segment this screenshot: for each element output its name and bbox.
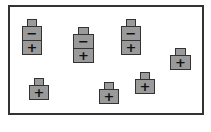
positive-cell: + bbox=[99, 89, 119, 104]
plus-icon: + bbox=[34, 86, 45, 99]
negative-cell: − bbox=[22, 26, 42, 41]
minus-icon: − bbox=[78, 35, 89, 48]
positive-cell: + bbox=[170, 55, 191, 70]
plus-icon: + bbox=[27, 41, 38, 54]
negative-cell: − bbox=[121, 26, 141, 41]
plus-icon: + bbox=[140, 80, 151, 93]
negative-cell: − bbox=[73, 34, 94, 49]
minus-icon: − bbox=[126, 27, 137, 40]
plus-icon: + bbox=[78, 49, 89, 62]
positive-cell: + bbox=[29, 85, 49, 100]
plus-icon: + bbox=[126, 41, 137, 54]
minus-icon: − bbox=[27, 27, 38, 40]
positive-cell: + bbox=[73, 48, 94, 63]
plus-icon: + bbox=[175, 56, 186, 69]
positive-cell: + bbox=[22, 40, 42, 55]
positive-cell: + bbox=[135, 79, 155, 94]
positive-cell: + bbox=[121, 40, 141, 55]
plus-icon: + bbox=[104, 90, 115, 103]
